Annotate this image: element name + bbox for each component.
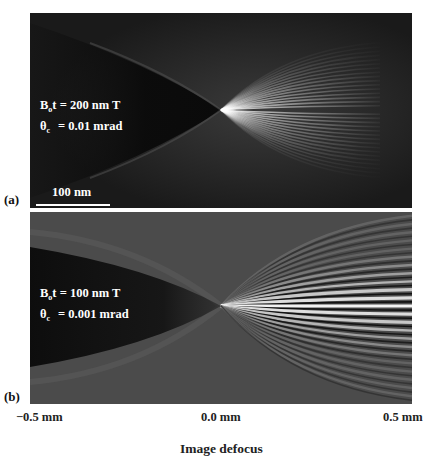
parameters-b: Bot = 100 nm T θc= 0.001 mrad	[40, 285, 129, 327]
value: t = 100 nm T	[52, 286, 120, 300]
field-strength-a: Bot = 200 nm T	[40, 97, 123, 118]
convergence-angle-b: θc= 0.001 mrad	[40, 306, 129, 327]
x-axis-label: Image defocus	[180, 441, 263, 457]
scalebar	[36, 204, 110, 206]
x-tick-positive: 0.5 mm	[383, 410, 423, 425]
value: = 0.01 mrad	[58, 119, 122, 133]
panel-label-a: (a)	[4, 192, 19, 208]
subscript: c	[47, 314, 51, 323]
panel-a-image: Bot = 200 nm T θc= 0.01 mrad 100 nm	[30, 13, 412, 208]
convergence-angle-a: θc= 0.01 mrad	[40, 118, 123, 139]
panel-b-image: Bot = 100 nm T θc= 0.001 mrad	[30, 212, 412, 404]
field-strength-b: Bot = 100 nm T	[40, 285, 129, 306]
subscript: c	[47, 126, 51, 135]
x-tick-zero: 0.0 mm	[201, 410, 241, 425]
panel-label-b: (b)	[4, 389, 20, 405]
value: t = 200 nm T	[52, 98, 120, 112]
value: = 0.001 mrad	[58, 307, 129, 321]
x-tick-negative: −0.5 mm	[16, 410, 63, 425]
parameters-a: Bot = 200 nm T θc= 0.01 mrad	[40, 97, 123, 139]
scalebar-label: 100 nm	[52, 185, 91, 200]
